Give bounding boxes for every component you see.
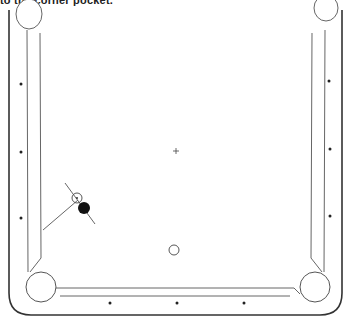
table-outer-frame [9, 10, 342, 315]
pocket-bottom-right [300, 272, 330, 302]
cue-ball [169, 245, 179, 255]
cue-path-line [43, 200, 78, 230]
pocket-top-right [314, 0, 338, 21]
aim-line [65, 183, 95, 224]
billiard-table-diagram [0, 0, 351, 321]
center-spot-icon [173, 148, 179, 154]
object-ball [78, 202, 90, 214]
pocket-bottom-left [26, 272, 56, 302]
ghost-ball-center [76, 197, 78, 199]
diamond-markers [20, 80, 332, 305]
right-cushion [311, 30, 325, 272]
left-cushion [27, 30, 41, 272]
bottom-cushion [50, 288, 300, 296]
pocket-top-left [16, 0, 42, 29]
